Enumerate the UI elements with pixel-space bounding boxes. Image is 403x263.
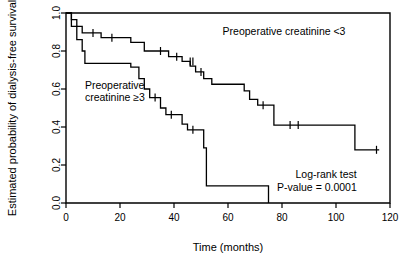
km-plot-svg: 020406080100120 0.00.20.40.60.81.0 Preop… xyxy=(0,0,403,263)
x-axis-title: Time (months) xyxy=(193,241,264,253)
x-tick-label-40: 40 xyxy=(168,212,180,223)
x-tick-label-60: 60 xyxy=(222,212,234,223)
x-tick-label-0: 0 xyxy=(63,212,69,223)
y-tick-label-0.2: 0.2 xyxy=(51,158,62,172)
label-upper: Preoperative creatinine <3 xyxy=(223,25,346,37)
y-tick-label-0.8: 0.8 xyxy=(51,44,62,58)
y-tick-label-1.0: 1.0 xyxy=(51,6,62,20)
annotation-layer: Preoperative creatinine <3Preoperativecr… xyxy=(85,25,357,193)
x-tick-label-20: 20 xyxy=(114,212,126,223)
x-tick-label-100: 100 xyxy=(328,212,345,223)
survival-curve-2 xyxy=(66,13,269,203)
x-tick-label-120: 120 xyxy=(382,212,399,223)
logrank-line1: Log-rank test xyxy=(296,168,357,180)
x-axis-ticks xyxy=(66,203,390,208)
y-axis-tick-labels: 0.00.20.40.60.81.0 xyxy=(51,6,62,210)
label-lower-line1: Preoperative xyxy=(85,79,145,91)
logrank-line2: P-value = 0.0001 xyxy=(277,181,357,193)
x-tick-label-80: 80 xyxy=(276,212,288,223)
label-lower-line2: creatinine ≥3 xyxy=(85,91,145,103)
y-tick-label-0.4: 0.4 xyxy=(51,120,62,134)
y-tick-label-0.0: 0.0 xyxy=(51,196,62,210)
y-axis-title: Estimated probability of dialysis-free s… xyxy=(6,0,18,216)
km-survival-figure: 020406080100120 0.00.20.40.60.81.0 Preop… xyxy=(0,0,403,263)
y-tick-label-0.6: 0.6 xyxy=(51,82,62,96)
y-axis-ticks xyxy=(61,13,66,203)
x-axis-tick-labels: 020406080100120 xyxy=(63,212,399,223)
